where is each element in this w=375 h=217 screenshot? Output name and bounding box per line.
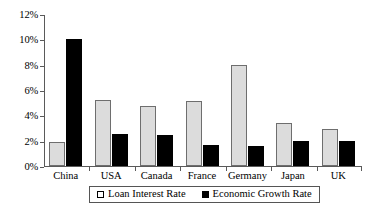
bar-group: Germany (231, 15, 264, 166)
y-axis-tick-label: 12% (19, 10, 38, 21)
bar-loan-interest-rate[interactable] (140, 106, 156, 166)
bar-group: Japan (276, 15, 309, 166)
x-axis-tick-label: Canada (141, 171, 173, 182)
y-axis-tick-label: 6% (24, 86, 38, 97)
bar-economic-growth-rate[interactable] (66, 39, 82, 166)
x-axis-tick (89, 167, 90, 171)
y-axis-tick-label: 2% (24, 136, 38, 147)
y-axis-tick (40, 66, 44, 67)
y-axis-line (44, 15, 45, 167)
x-axis-tick-label: France (188, 171, 217, 182)
bar-group: France (186, 15, 219, 166)
x-axis-tick (317, 167, 318, 171)
x-axis-tick-label: China (53, 171, 78, 182)
x-axis-tick-label: USA (101, 171, 122, 182)
x-axis-tick-label: Japan (281, 171, 305, 182)
y-axis-tick (40, 15, 44, 16)
legend-item[interactable]: Loan Interest Rate (97, 189, 186, 200)
x-axis-end-tick (361, 167, 362, 171)
legend-label: Economic Growth Rate (213, 189, 312, 200)
bar-loan-interest-rate[interactable] (322, 129, 338, 166)
bar-economic-growth-rate[interactable] (112, 134, 128, 166)
bar-loan-interest-rate[interactable] (231, 65, 247, 166)
bar-economic-growth-rate[interactable] (339, 141, 355, 166)
y-axis-tick (40, 142, 44, 143)
x-axis-tick-label: UK (331, 171, 346, 182)
chart-legend: Loan Interest RateEconomic Growth Rate (89, 186, 320, 203)
bar-loan-interest-rate[interactable] (95, 100, 111, 166)
bar-loan-interest-rate[interactable] (276, 123, 292, 166)
y-axis-tick-label: 0% (24, 162, 38, 173)
y-axis-tick (40, 40, 44, 41)
x-axis-tick (180, 167, 181, 171)
bar-chart: 0%2%4%6%8%10%12% ChinaUSACanadaFranceGer… (0, 0, 375, 217)
bar-economic-growth-rate[interactable] (203, 145, 219, 166)
x-axis-tick (135, 167, 136, 171)
bar-economic-growth-rate[interactable] (293, 141, 309, 166)
bar-loan-interest-rate[interactable] (49, 142, 65, 166)
legend-label: Loan Interest Rate (108, 189, 186, 200)
legend-swatch-hollow-square-icon (97, 191, 104, 198)
y-axis-tick-label: 4% (24, 111, 38, 122)
x-axis-line (44, 166, 362, 167)
plot-area: 0%2%4%6%8%10%12% ChinaUSACanadaFranceGer… (44, 15, 362, 167)
y-axis-tick (40, 91, 44, 92)
legend-item[interactable]: Economic Growth Rate (202, 189, 312, 200)
bar-economic-growth-rate[interactable] (157, 135, 173, 166)
y-axis-tick-label: 10% (19, 35, 38, 46)
bar-group: UK (322, 15, 355, 166)
bar-group: China (49, 15, 82, 166)
bar-group: Canada (140, 15, 173, 166)
y-axis-tick-label: 8% (24, 60, 38, 71)
legend-swatch-filled-square-icon (202, 191, 209, 198)
x-axis-tick-label: Germany (228, 171, 267, 182)
x-axis-tick (226, 167, 227, 171)
y-axis-tick (40, 116, 44, 117)
bar-group: USA (95, 15, 128, 166)
bar-economic-growth-rate[interactable] (248, 146, 264, 166)
bar-loan-interest-rate[interactable] (186, 101, 202, 166)
y-axis-tick (40, 167, 44, 168)
x-axis-tick (271, 167, 272, 171)
